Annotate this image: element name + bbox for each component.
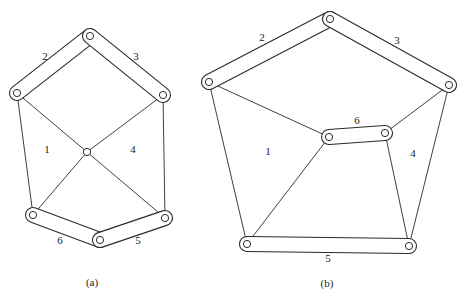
- figure-caption: (b): [321, 277, 334, 290]
- bar-CG: [163, 95, 165, 218]
- pin-joint-icon: [243, 240, 250, 247]
- figure-caption: (a): [86, 276, 99, 289]
- pin-joint-icon: [405, 242, 412, 249]
- link-label-6: 6: [57, 234, 63, 246]
- pin-joint-icon: [445, 81, 452, 88]
- link-label-4: 4: [410, 147, 416, 159]
- pin-joint-icon: [159, 91, 166, 98]
- link-label-3: 3: [394, 34, 400, 46]
- link-label-1: 1: [44, 143, 50, 155]
- bar-DG: [87, 152, 165, 218]
- bar-BF: [209, 82, 247, 244]
- link-3: [320, 9, 459, 95]
- linkage-figure-b: 236514 (b): [199, 9, 459, 290]
- bar-BE: [17, 93, 33, 215]
- link-label-4: 4: [130, 143, 136, 155]
- link-label-6: 6: [354, 114, 360, 126]
- bar-DF: [247, 137, 329, 244]
- pin-joint-icon: [205, 78, 212, 85]
- pin-joint-icon: [86, 32, 93, 39]
- linkage-diagram-canvas: 236514 (a) 236514 (b): [0, 0, 468, 300]
- pin-joint-icon: [96, 236, 103, 243]
- link-labels: 236514: [259, 31, 416, 264]
- link-label-5: 5: [135, 234, 141, 246]
- link-label-5: 5: [325, 252, 331, 264]
- pin-joint-icon: [83, 148, 90, 155]
- pin-joint-icon: [326, 15, 333, 22]
- link-label-3: 3: [133, 50, 139, 62]
- bar-BD: [17, 93, 87, 152]
- link-label-2: 2: [42, 50, 48, 62]
- pin-joint-icon: [13, 89, 20, 96]
- ternary-link-bars: [209, 82, 449, 246]
- bar-BD: [209, 82, 329, 137]
- link-2: [199, 9, 340, 92]
- link-5: [90, 208, 174, 249]
- ternary-link-bars: [17, 93, 165, 218]
- bar-CG: [409, 85, 449, 246]
- bar-CD: [87, 95, 163, 152]
- binary-links: [199, 9, 459, 254]
- bar-DE: [33, 152, 87, 215]
- link-label-1: 1: [265, 145, 271, 157]
- pin-joint-icon: [29, 211, 36, 218]
- pin-joint-icon: [325, 133, 332, 140]
- bar-CE: [385, 85, 449, 133]
- pin-joint-icon: [381, 129, 388, 136]
- linkage-figure-a: 236514 (a): [6, 25, 174, 288]
- pin-joint-icon: [161, 214, 168, 221]
- bar-EG: [385, 133, 409, 246]
- link-label-2: 2: [259, 31, 265, 43]
